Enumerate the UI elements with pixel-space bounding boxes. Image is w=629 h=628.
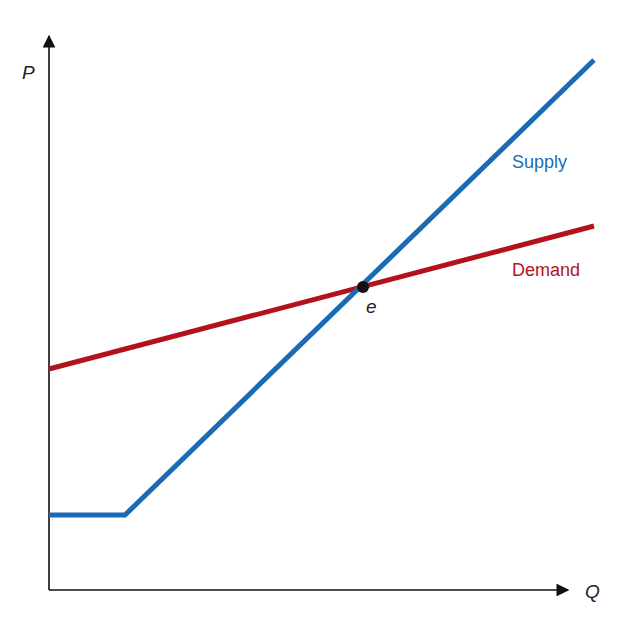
demand-label: Demand — [512, 260, 580, 281]
x-axis-label: Q — [585, 581, 600, 603]
y-axis-label: P — [22, 62, 35, 84]
demand-curve — [49, 226, 594, 369]
supply-curve — [49, 60, 594, 515]
equilibrium-point — [357, 281, 369, 293]
supply-demand-chart — [0, 0, 629, 628]
supply-label: Supply — [512, 152, 567, 173]
equilibrium-label: e — [366, 296, 377, 318]
